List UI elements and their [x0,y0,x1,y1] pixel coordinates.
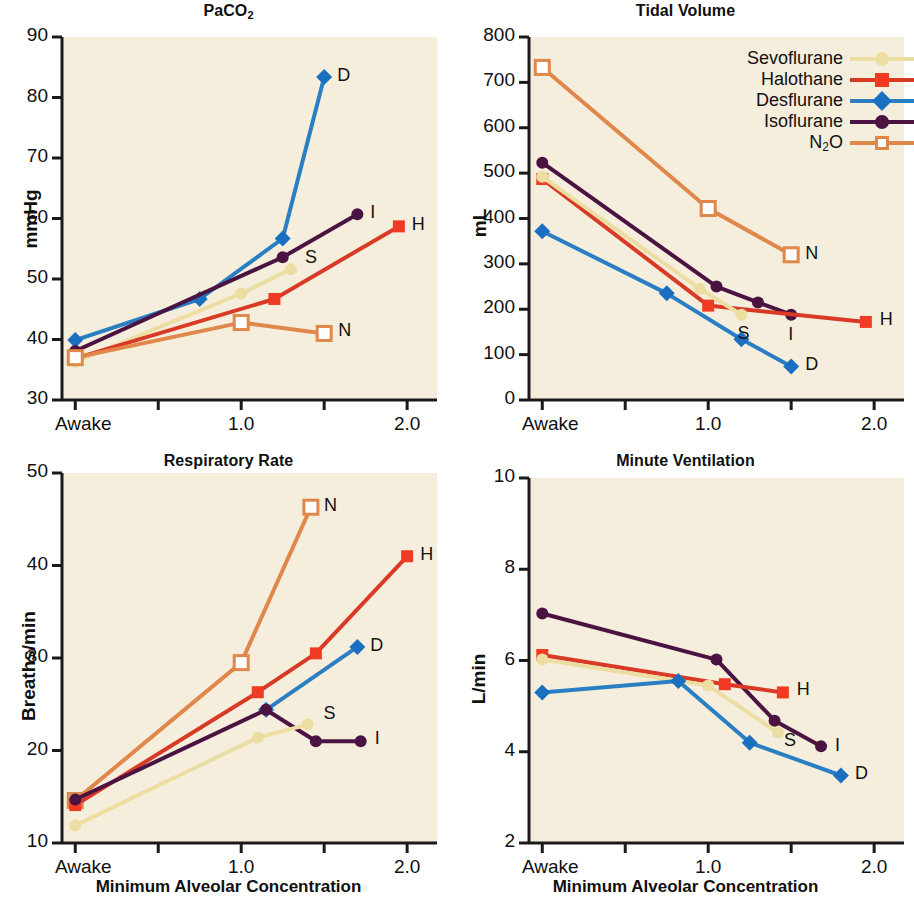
legend-row-sevoflurane: Sevoflurane [687,48,914,69]
y-tick-label: 40 [0,327,48,349]
y-tick-label: 20 [0,738,48,760]
y-tick-label: 30 [0,645,48,667]
series-end-label-n2o: N [805,243,818,264]
y-tick-label: 50 [0,266,48,288]
x-axis-label-minute-ventilation: Minimum Alveolar Concentration [457,877,914,897]
legend-label-isoflurane: Isoflurane [764,111,843,132]
series-end-label-desflurane: D [370,635,383,656]
y-tick-label: 500 [463,160,515,182]
x-axis-label-respiratory-rate: Minimum Alveolar Concentration [0,877,457,897]
legend-label-n2o: N2O [809,132,843,153]
y-tick-label: 6 [463,648,515,670]
y-tick-label: 70 [0,145,48,167]
panel-minute-ventilation: Minute Ventilation L/min Minimum Alveola… [457,440,914,905]
y-tick-label: 90 [0,24,48,46]
series-end-label-sevoflurane: S [305,247,317,268]
legend-row-n2o: N2O [687,132,914,153]
y-tick-label: 60 [0,206,48,228]
legend: Sevoflurane Halothane Desflurane [687,48,914,153]
y-tick-label: 300 [463,251,515,273]
respiratory-effects-figure: PaCO2 mmHg Minimum Alveolar Concentratio… [0,0,914,905]
series-end-label-isoflurane: I [375,728,380,749]
y-tick-label: 10 [463,465,515,487]
legend-key-n2o [850,134,914,152]
panel-respiratory-rate: Respiratory Rate Breaths/min Minimum Alv… [0,440,457,905]
y-tick-label: 2 [463,830,515,852]
legend-label-desflurane: Desflurane [756,90,843,111]
y-tick-label: 30 [0,387,48,409]
x-tick-label: 2.0 [819,413,914,435]
legend-row-isoflurane: Isoflurane [687,111,914,132]
sevoflurane-marker-icon [875,52,889,66]
legend-key-isoflurane [850,113,914,131]
plot-area-minute-ventilation [457,440,914,905]
series-end-label-sevoflurane: S [324,703,336,724]
halothane-marker-icon [875,73,889,87]
y-tick-label: 50 [0,460,48,482]
x-tick-label: 1.0 [653,856,763,878]
legend-key-halothane [850,71,914,89]
legend-label-halothane: Halothane [761,69,843,90]
x-tick-label: 2.0 [352,856,462,878]
y-tick-label: 10 [0,830,48,852]
series-end-label-desflurane: D [855,763,868,784]
legend-row-desflurane: Desflurane [687,90,914,111]
series-end-label-halothane: H [412,214,425,235]
series-end-label-n2o: N [324,495,337,516]
x-tick-label: 2.0 [352,413,462,435]
x-tick-label: Awake [495,856,605,878]
series-end-label-isoflurane: I [788,324,793,345]
panel-paco2: PaCO2 mmHg Minimum Alveolar Concentratio… [0,0,457,440]
legend-key-sevoflurane [850,50,914,68]
y-tick-label: 600 [463,115,515,137]
legend-label-sevoflurane: Sevoflurane [747,48,843,69]
y-tick-label: 80 [0,85,48,107]
x-tick-label: 1.0 [186,413,296,435]
y-tick-label: 200 [463,296,515,318]
series-end-label-desflurane: D [805,354,818,375]
series-end-label-isoflurane: I [835,735,840,756]
series-end-label-desflurane: D [337,65,350,86]
x-tick-label: 1.0 [653,413,763,435]
series-end-label-halothane: H [880,309,893,330]
y-tick-label: 400 [463,206,515,228]
panel-tidal-volume: Tidal Volume mL Sevoflurane Halothane De… [457,0,914,440]
series-end-label-halothane: H [420,544,433,565]
y-tick-label: 40 [0,553,48,575]
isoflurane-marker-icon [875,115,889,129]
legend-key-desflurane [850,92,914,110]
legend-row-halothane: Halothane [687,69,914,90]
x-tick-label: 2.0 [819,856,914,878]
n2o-marker-icon [875,136,889,150]
x-tick-label: 1.0 [186,856,296,878]
plot-area-paco2 [0,0,457,440]
x-tick-label: Awake [28,856,138,878]
y-tick-label: 4 [463,739,515,761]
series-end-label-sevoflurane: S [737,323,749,344]
series-end-label-n2o: N [338,320,351,341]
y-tick-label: 100 [463,342,515,364]
series-end-label-sevoflurane: S [784,730,796,751]
plot-area-respiratory-rate [0,440,457,905]
y-tick-label: 800 [463,24,515,46]
desflurane-marker-icon [872,91,892,111]
series-end-label-halothane: H [797,679,810,700]
x-tick-label: Awake [495,413,605,435]
y-tick-label: 0 [463,387,515,409]
series-end-label-isoflurane: I [370,202,375,223]
y-tick-label: 8 [463,556,515,578]
y-tick-label: 700 [463,69,515,91]
x-tick-label: Awake [28,413,138,435]
